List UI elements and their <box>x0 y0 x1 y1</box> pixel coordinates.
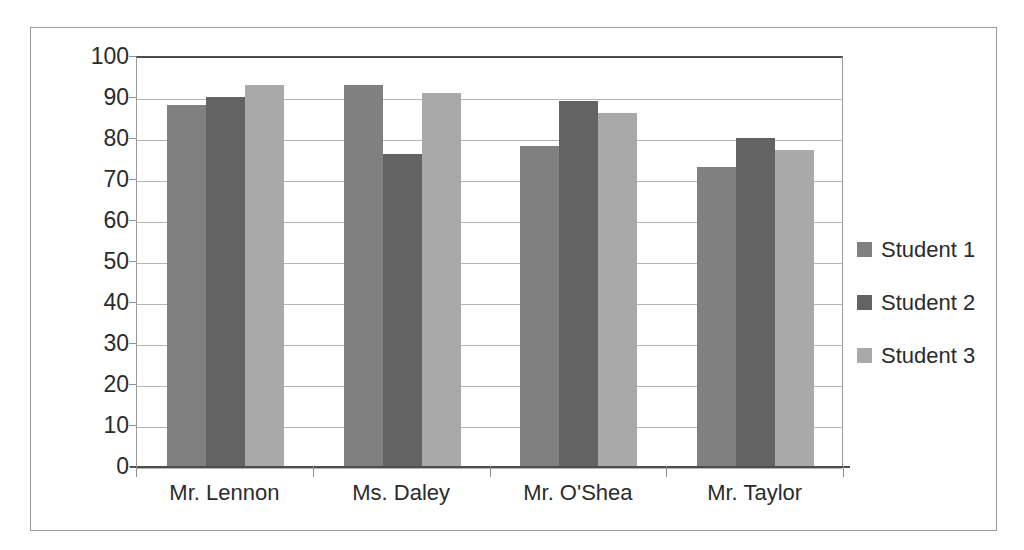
bar[interactable] <box>422 93 461 466</box>
bar-group <box>667 56 844 466</box>
x-axis-label: Mr. Taylor <box>666 480 843 506</box>
legend-label: Student 1 <box>881 237 975 263</box>
bar[interactable] <box>736 138 775 466</box>
legend-item[interactable]: Student 2 <box>857 276 997 329</box>
x-axis-label: Ms. Daley <box>313 480 490 506</box>
bar-group <box>491 56 668 466</box>
x-axis-tick <box>136 466 137 477</box>
legend-swatch-icon <box>857 242 872 257</box>
y-axis-tick-labels: 1009080706050403020100 <box>41 28 129 530</box>
x-axis-label: Mr. O'Shea <box>490 480 667 506</box>
y-axis-label-0: 0 <box>69 455 129 478</box>
chart-legend: Student 1Student 2Student 3 <box>857 223 997 382</box>
x-axis-tick <box>490 466 491 477</box>
x-axis-tick <box>843 466 844 477</box>
y-axis-label-20: 20 <box>69 373 129 396</box>
plot-area <box>136 56 843 466</box>
y-axis-label-50: 50 <box>69 250 129 273</box>
x-axis-tick <box>666 466 667 477</box>
y-axis-label-80: 80 <box>69 127 129 150</box>
bar[interactable] <box>206 97 245 466</box>
chart-frame: 1009080706050403020100 Mr. LennonMs. Dal… <box>30 27 997 531</box>
bar[interactable] <box>559 101 598 466</box>
bar[interactable] <box>598 113 637 466</box>
bar[interactable] <box>697 167 736 466</box>
bar[interactable] <box>775 150 814 466</box>
bar[interactable] <box>167 105 206 466</box>
y-axis-label-60: 60 <box>69 209 129 232</box>
x-axis-label: Mr. Lennon <box>136 480 313 506</box>
bar-group <box>137 56 314 466</box>
bar[interactable] <box>520 146 559 466</box>
bar[interactable] <box>383 154 422 466</box>
legend-swatch-icon <box>857 295 872 310</box>
x-axis-tick <box>313 466 314 477</box>
y-axis-label-10: 10 <box>69 414 129 437</box>
legend-item[interactable]: Student 3 <box>857 329 997 382</box>
legend-label: Student 3 <box>881 343 975 369</box>
bar[interactable] <box>245 85 284 466</box>
bar-group <box>314 56 491 466</box>
legend-label: Student 2 <box>881 290 975 316</box>
y-axis-label-70: 70 <box>69 168 129 191</box>
y-axis-label-40: 40 <box>69 291 129 314</box>
legend-swatch-icon <box>857 348 872 363</box>
bar[interactable] <box>344 85 383 466</box>
y-axis-label-100: 100 <box>69 45 129 68</box>
legend-item[interactable]: Student 1 <box>857 223 997 276</box>
y-axis-label-90: 90 <box>69 86 129 109</box>
y-axis-label-30: 30 <box>69 332 129 355</box>
